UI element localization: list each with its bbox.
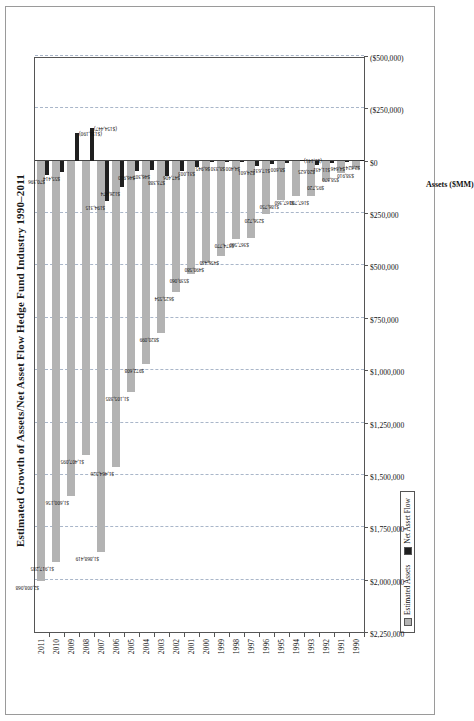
- data-label-estimated-assets-2008: $1,407,095: [61, 459, 84, 465]
- value-axis-tick-label: $1,000,000: [370, 368, 404, 377]
- bar-net-asset-flow-2005: [135, 161, 140, 171]
- gridline: [35, 55, 364, 56]
- data-label-net-asset-flow-2005: $46,910: [118, 175, 135, 181]
- data-label-estimated-assets-1992: $95,720: [307, 185, 324, 191]
- category-axis-tick: [334, 633, 335, 637]
- bar-estimated-assets-2000: [202, 161, 210, 264]
- value-axis-tick: [364, 475, 368, 476]
- category-axis-tick: [124, 633, 125, 637]
- category-axis-tick: [289, 633, 290, 637]
- gridline: [35, 579, 364, 580]
- bar-net-asset-flow-1996: [270, 161, 275, 165]
- data-label-net-asset-flow-2011: $70,396: [28, 179, 45, 185]
- value-axis-tick: [364, 370, 368, 371]
- category-axis-tick: [304, 633, 305, 637]
- category-label-2011: 2011: [37, 639, 46, 667]
- gridline: [35, 526, 364, 527]
- value-axis-tick-label: $1,500,000: [370, 473, 404, 482]
- category-label-2005: 2005: [127, 639, 136, 667]
- value-axis-tick-label: $500,000: [370, 263, 398, 272]
- data-label-estimated-assets-1999: $456,430: [200, 260, 219, 266]
- category-axis-tick: [169, 633, 170, 637]
- category-label-2007: 2007: [97, 639, 106, 667]
- value-axis-tick-label: $2,250,000: [370, 630, 404, 639]
- category-axis-tick: [214, 633, 215, 637]
- data-label-estimated-assets-1998: $374,770: [215, 243, 234, 249]
- value-axis-tick: [364, 580, 368, 581]
- category-axis-tick: [319, 633, 320, 637]
- category-axis-tick: [364, 633, 365, 637]
- category-label-1997: 1997: [247, 639, 256, 667]
- plot-area: [34, 57, 364, 633]
- bar-net-asset-flow-2011: [45, 161, 50, 176]
- bar-estimated-assets-2005: [127, 161, 135, 393]
- bar-net-asset-flow-2006: [120, 161, 125, 187]
- value-axis-tick: [364, 423, 368, 424]
- category-label-2002: 2002: [172, 639, 181, 667]
- data-label-estimated-assets-2005: $1,105,385: [106, 396, 129, 402]
- bar-net-asset-flow-1997: [255, 161, 260, 166]
- data-label-net-asset-flow-1995: $8,600: [271, 167, 285, 173]
- category-label-1991: 1991: [337, 639, 346, 667]
- category-axis-tick: [349, 633, 350, 637]
- data-label-estimated-assets-2003: $820,099: [140, 337, 159, 343]
- value-axis-tick: [364, 161, 368, 162]
- bar-estimated-assets-2011: [37, 161, 45, 582]
- data-label-net-asset-flow-1999: $8,330: [211, 166, 225, 172]
- data-label-estimated-assets-2006: $1,464,526: [91, 471, 114, 477]
- value-axis-tick: [364, 318, 368, 319]
- value-axis-tick: [364, 265, 368, 266]
- bar-net-asset-flow-2010: [60, 161, 65, 173]
- value-axis-tick-label: ($250,000): [370, 106, 404, 115]
- category-label-1994: 1994: [292, 639, 301, 667]
- category-axis-tick: [259, 633, 260, 637]
- data-label-estimated-assets-2001: $539,060: [170, 278, 189, 284]
- value-axis-tick-label: $750,000: [370, 316, 398, 325]
- category-axis-tick: [154, 633, 155, 637]
- legend-label-estimated-assets: Estimated Assets: [403, 565, 412, 615]
- bar-estimated-assets-2004: [142, 161, 150, 365]
- data-label-estimated-assets-2009: $1,600,156: [46, 500, 69, 506]
- data-label-net-asset-flow-1990: $2,624: [346, 165, 360, 171]
- data-label-net-asset-flow-2004: $46,307: [133, 174, 150, 180]
- value-axis-tick-label: $250,000: [370, 211, 398, 220]
- bar-net-asset-flow-2009: [75, 133, 80, 160]
- category-axis-tick: [49, 633, 50, 637]
- data-label-estimated-assets-1996: $256,720: [245, 219, 264, 225]
- data-label-estimated-assets-2004: $972,608: [125, 368, 144, 374]
- data-label-estimated-assets-2011: $2,008,068: [16, 585, 39, 591]
- bar-net-asset-flow-2003: [165, 161, 170, 176]
- data-label-net-asset-flow-2009: ($131,190): [79, 131, 102, 137]
- category-axis-tick: [79, 633, 80, 637]
- category-axis-tick: [94, 633, 95, 637]
- bar-net-asset-flow-1992: [330, 161, 335, 163]
- legend-label-net-asset-flow: Net Asset Flow: [403, 498, 412, 544]
- category-axis-tick: [64, 633, 65, 637]
- category-label-1995: 1995: [277, 639, 286, 667]
- bar-estimated-assets-2001: [187, 161, 195, 274]
- bar-net-asset-flow-2000: [210, 161, 215, 162]
- category-axis-line: [364, 57, 365, 633]
- category-axis-tick: [139, 633, 140, 637]
- bar-net-asset-flow-1999: [225, 161, 230, 163]
- category-label-1996: 1996: [262, 639, 271, 667]
- gridline: [35, 107, 364, 108]
- bar-estimated-assets-2007: [97, 161, 105, 552]
- value-axis-tick-label: $0: [370, 159, 378, 168]
- value-axis-tick-label: $1,750,000: [370, 525, 404, 534]
- data-label-net-asset-flow-1996: $17,631: [253, 168, 270, 174]
- data-label-estimated-assets-2010: $1,917,285: [31, 566, 54, 572]
- bar-estimated-assets-1994: [292, 161, 300, 196]
- data-label-estimated-assets-2000: $490,580: [185, 267, 204, 273]
- bar-net-asset-flow-1991: [345, 161, 350, 162]
- bar-net-asset-flow-1995: [285, 161, 290, 163]
- bar-net-asset-flow-2002: [180, 161, 185, 171]
- bar-estimated-assets-2006: [112, 161, 120, 468]
- data-label-net-asset-flow-1994: ($1,141): [304, 159, 322, 165]
- data-label-net-asset-flow-1997: $24,601: [238, 170, 255, 176]
- category-axis-tick: [274, 633, 275, 637]
- data-label-estimated-assets-1995: $186,750: [260, 204, 279, 210]
- data-label-net-asset-flow-1998: $4,400: [226, 166, 240, 172]
- data-label-estimated-assets-2007: $1,868,419: [76, 556, 99, 562]
